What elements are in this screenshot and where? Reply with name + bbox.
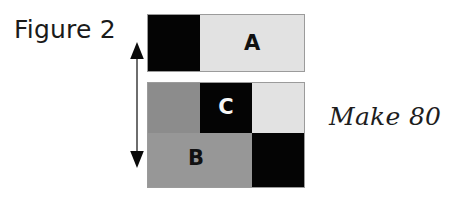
figure-canvas: Figure 2 A C bbox=[0, 0, 455, 199]
bottom-block-upper-row: C bbox=[148, 83, 304, 133]
label-b: B bbox=[188, 148, 212, 173]
bottom-block-cell-gray-upper-left bbox=[148, 83, 200, 133]
top-bar-segment-black bbox=[148, 15, 200, 71]
top-bar: A bbox=[147, 14, 305, 72]
top-bar-segment-a: A bbox=[200, 15, 304, 71]
bottom-block-cell-c: C bbox=[200, 83, 252, 133]
bottom-block-cell-black-lower-right bbox=[252, 133, 304, 188]
bottom-block-cell-light-upper-right bbox=[252, 83, 304, 133]
figure-caption: Figure 2 bbox=[14, 17, 116, 42]
label-a: A bbox=[244, 33, 260, 54]
double-headed-vertical-arrow-icon bbox=[126, 40, 148, 170]
bottom-block: C B bbox=[147, 82, 305, 188]
label-c: C bbox=[218, 97, 233, 120]
bottom-block-cell-b: B bbox=[148, 133, 252, 188]
bottom-block-lower-row: B bbox=[148, 133, 304, 188]
height-dimension-arrow bbox=[126, 40, 148, 170]
figure-annotation: Make 80 bbox=[329, 104, 441, 129]
